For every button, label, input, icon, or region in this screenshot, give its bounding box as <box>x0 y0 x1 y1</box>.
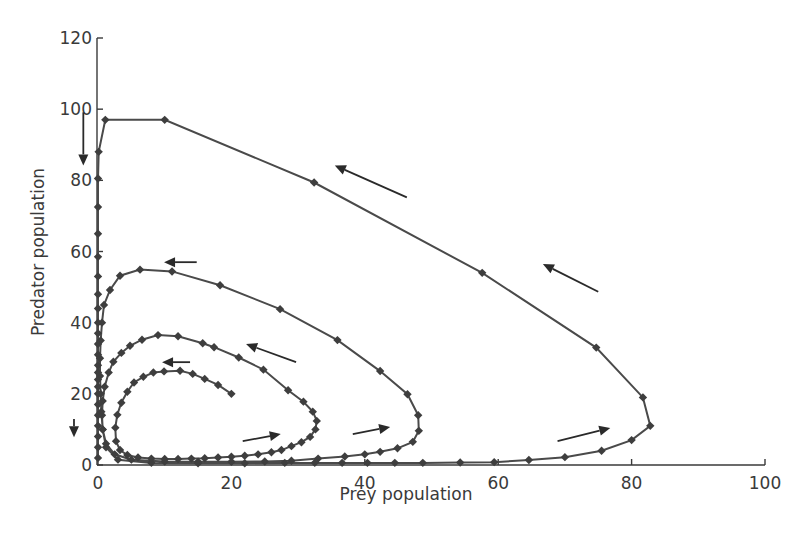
diamond-marker <box>94 230 102 238</box>
diamond-marker <box>94 432 102 440</box>
diamond-marker <box>276 305 284 313</box>
direction-arrow-icon <box>243 431 281 441</box>
x-tick-label: 80 <box>621 473 643 493</box>
diamond-marker <box>176 367 184 375</box>
direction-arrow-icon <box>246 343 296 362</box>
diamond-marker <box>525 456 533 464</box>
x-tick-label: 60 <box>487 473 509 493</box>
diamond-marker <box>138 336 146 344</box>
diamond-marker <box>235 353 243 361</box>
y-tick-label: 40 <box>70 313 92 333</box>
diamond-marker <box>409 438 417 446</box>
diamond-marker <box>216 281 224 289</box>
diamond-marker <box>94 148 102 156</box>
diamond-marker <box>94 203 102 211</box>
direction-arrow-icon <box>353 424 390 434</box>
diamond-marker <box>376 448 384 456</box>
x-tick-label: 20 <box>221 473 243 493</box>
diamond-marker <box>111 423 119 431</box>
diamond-marker <box>361 450 369 458</box>
diamond-marker <box>94 272 102 280</box>
y-tick-label: 120 <box>60 28 92 48</box>
y-axis-label: Predator population <box>28 168 48 336</box>
direction-arrow-icon <box>543 264 598 292</box>
diamond-marker <box>161 116 169 124</box>
diamond-marker <box>597 447 605 455</box>
diamond-marker <box>310 178 318 186</box>
diamond-marker <box>393 444 401 452</box>
diamond-marker <box>241 459 249 467</box>
diamond-marker <box>174 332 182 340</box>
direction-arrow-icon <box>78 112 88 165</box>
diamond-marker <box>94 290 102 298</box>
phase-plane-chart: 020406080100020406080100120 Prey populat… <box>0 0 805 548</box>
diamond-marker <box>136 265 144 273</box>
y-tick-label: 80 <box>70 170 92 190</box>
diamond-marker <box>254 450 262 458</box>
diamond-marker <box>194 459 202 467</box>
x-axis-label: Prey population <box>340 484 473 504</box>
diamond-marker <box>149 368 157 376</box>
diamond-marker <box>154 331 162 339</box>
trajectory-series <box>94 116 655 468</box>
diamond-marker <box>561 453 569 461</box>
direction-arrow-icon <box>164 257 197 267</box>
x-tick-label: 0 <box>93 473 104 493</box>
diamond-marker <box>189 370 197 378</box>
diamond-marker <box>104 368 112 376</box>
diamond-marker <box>112 437 120 445</box>
diamond-marker <box>277 446 285 454</box>
y-tick-label: 60 <box>70 242 92 262</box>
diamond-marker <box>267 448 275 456</box>
axes <box>97 38 765 465</box>
diamond-marker <box>414 411 422 419</box>
trajectory-line <box>98 120 650 463</box>
y-tick-label: 0 <box>81 455 92 475</box>
direction-arrow-icon <box>162 357 190 367</box>
diamond-marker <box>313 417 321 425</box>
diamond-marker <box>94 174 102 182</box>
diamond-marker <box>214 453 222 461</box>
diamond-marker <box>101 116 109 124</box>
diamond-marker <box>419 459 427 467</box>
diamond-marker <box>94 443 102 451</box>
diamond-marker <box>94 253 102 261</box>
x-tick-label: 100 <box>749 473 781 493</box>
diamond-marker <box>160 367 168 375</box>
diamond-marker <box>94 454 102 462</box>
y-tick-label: 20 <box>70 384 92 404</box>
diamond-marker <box>287 442 295 450</box>
y-tick-label: 100 <box>60 99 92 119</box>
diamond-marker <box>210 343 218 351</box>
diamond-marker <box>117 399 125 407</box>
diamond-marker <box>241 452 249 460</box>
direction-arrows <box>69 112 610 441</box>
diamond-marker <box>415 427 423 435</box>
direction-arrow-icon <box>558 426 611 441</box>
diamond-marker <box>113 411 121 419</box>
diamond-marker <box>168 267 176 275</box>
direction-arrow-icon <box>335 165 407 197</box>
diamond-marker <box>391 459 399 467</box>
direction-arrow-icon <box>69 419 79 437</box>
diamond-marker <box>199 339 207 347</box>
diamond-marker <box>201 375 209 383</box>
